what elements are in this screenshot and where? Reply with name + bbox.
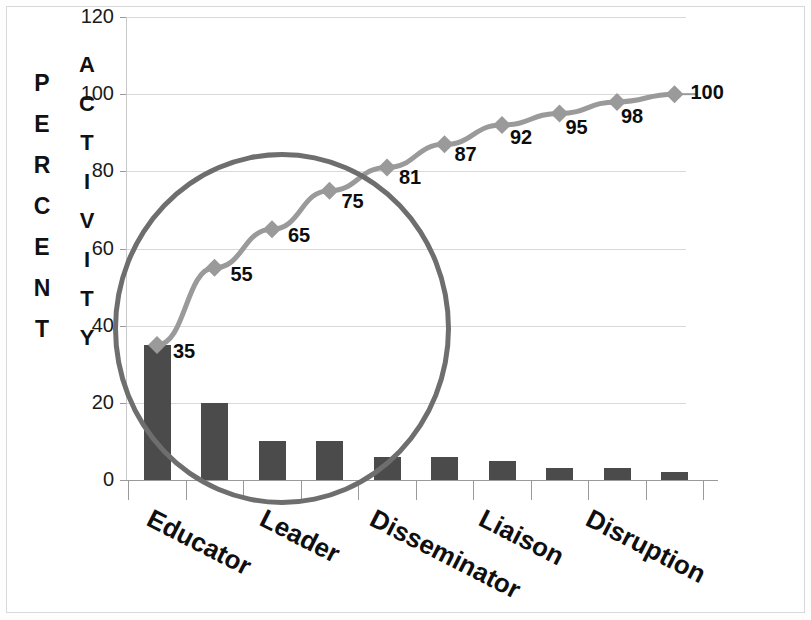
line-marker (493, 116, 511, 134)
bar (374, 457, 401, 480)
x-axis-tick (473, 480, 474, 500)
y-axis-title2-letter: V (80, 210, 95, 232)
x-axis-tick (301, 480, 302, 500)
gridline (126, 249, 686, 250)
bar (489, 461, 516, 480)
bar (604, 468, 631, 480)
bar (144, 345, 171, 480)
x-axis-tick (703, 480, 704, 500)
cumulative-data-label: 75 (342, 191, 364, 211)
gridline (126, 326, 686, 327)
y-axis-title2-letter: T (80, 132, 93, 154)
x-axis-tick (128, 480, 129, 500)
cumulative-data-label: 87 (455, 144, 477, 164)
x-axis-tick (416, 480, 417, 500)
cumulative-data-label: 65 (288, 225, 310, 245)
cumulative-data-label: 55 (231, 264, 253, 284)
y-axis-tick-label: 20 (0, 392, 114, 412)
y-axis-tick-label: 0 (0, 469, 114, 489)
cumulative-data-label: 95 (566, 117, 588, 137)
line-marker (263, 220, 281, 238)
cumulative-data-label: 35 (173, 341, 195, 361)
y-axis-tick-label: 120 (0, 6, 114, 26)
y-axis-title2-letter: A (79, 54, 95, 76)
cumulative-data-label: 92 (510, 127, 532, 147)
y-axis-title2-letter: C (79, 93, 95, 115)
y-axis-title2-letter: Y (80, 327, 95, 349)
x-axis-tick (646, 480, 647, 500)
cumulative-data-label: 100 (691, 82, 724, 102)
x-axis-tick (186, 480, 187, 500)
y-axis-title-letter: C (34, 195, 51, 218)
cumulative-data-label: 81 (399, 167, 421, 187)
y-axis-title-activity: A C T I V I T Y (74, 54, 100, 366)
bar (431, 457, 458, 480)
x-axis-tick (588, 480, 589, 500)
gridline (126, 17, 686, 18)
bar (661, 472, 688, 480)
y-axis-line (126, 17, 127, 480)
bar (259, 441, 286, 480)
line-marker (206, 259, 224, 277)
line-marker (378, 158, 396, 176)
x-axis-tick (243, 480, 244, 500)
bar (201, 403, 228, 480)
line-marker (436, 135, 454, 153)
y-axis-title2-letter: I (84, 249, 90, 271)
cumulative-line (157, 94, 675, 345)
cumulative-data-label: 98 (621, 106, 643, 126)
line-marker (321, 182, 339, 200)
x-axis-line (126, 480, 718, 481)
bar (316, 441, 343, 480)
y-axis-title2-letter: I (84, 171, 90, 193)
gridline (126, 94, 686, 95)
plot-area: 355565758187929598100 (126, 17, 686, 480)
x-axis-tick (531, 480, 532, 500)
y-axis-title-letter: E (34, 113, 49, 136)
y-axis-title2-letter: T (80, 288, 93, 310)
bar (546, 468, 573, 480)
x-axis-tick (358, 480, 359, 500)
pareto-chart: P E R C E N T A C T I V I T Y 1201008060… (0, 0, 811, 620)
y-axis-title-letter: N (34, 277, 51, 300)
